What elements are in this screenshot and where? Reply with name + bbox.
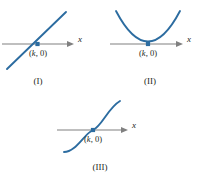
panel-3-graphic: x (k, 0) <box>50 95 145 157</box>
x-axis-label: x <box>131 120 136 130</box>
parabola-curve <box>116 11 180 42</box>
panel-3-caption: (III) <box>79 163 121 172</box>
x-axis-arrowhead <box>121 127 128 133</box>
panel-2-caption: (II) <box>129 77 171 86</box>
linear-curve <box>7 12 66 69</box>
root-label-rest: , 0) <box>146 48 158 58</box>
x-axis-arrowhead <box>176 41 183 47</box>
root-label-rest: , 0) <box>91 134 103 144</box>
panel-2-graphic: x (k, 0) <box>105 0 197 75</box>
root-point-marker <box>146 42 150 46</box>
root-coordinate-label: (k, 0) <box>84 134 102 144</box>
figure-container: x (k, 0) (I) x (k, 0) (II) <box>0 0 197 178</box>
panel-double-root: x (k, 0) <box>105 0 197 75</box>
x-axis-label: x <box>77 34 82 44</box>
root-label-rest: , 0) <box>36 48 48 58</box>
panel-triple-root: x (k, 0) <box>50 95 145 157</box>
root-coordinate-label: (k, 0) <box>139 48 157 58</box>
root-point-marker <box>91 128 95 132</box>
cubic-curve <box>64 101 120 152</box>
x-axis-arrowhead <box>67 41 74 47</box>
root-coordinate-label: (k, 0) <box>29 48 47 58</box>
panel-1-caption: (I) <box>17 77 59 86</box>
x-axis-label: x <box>186 34 191 44</box>
root-point-marker <box>35 42 39 46</box>
panel-1-graphic: x (k, 0) <box>0 0 90 75</box>
panel-linear-root: x (k, 0) <box>0 0 90 75</box>
